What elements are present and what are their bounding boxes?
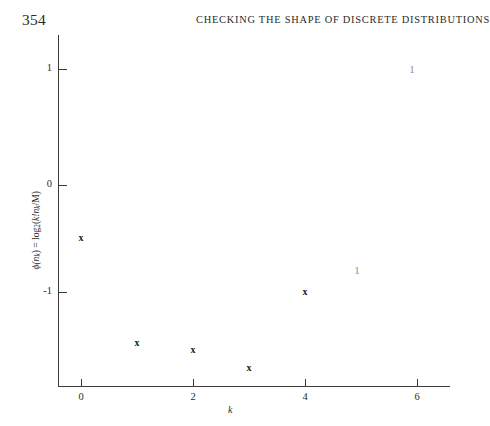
y-axis-label-arg: k!n bbox=[30, 209, 41, 221]
data-point: x bbox=[242, 361, 256, 375]
y-axis-label-arg-sub: k bbox=[34, 205, 42, 208]
x-axis-tick-label: 0 bbox=[69, 391, 93, 402]
x-axis-line bbox=[58, 386, 450, 387]
annotation-label: 1 bbox=[405, 62, 419, 76]
y-axis-tick bbox=[59, 292, 67, 293]
data-point: x bbox=[186, 343, 200, 357]
y-axis-label-phi: ϕ(n bbox=[30, 257, 41, 270]
y-axis-label-log-sub: 2 bbox=[34, 224, 42, 228]
x-axis-tick bbox=[193, 379, 194, 387]
x-axis-tick bbox=[417, 379, 418, 387]
x-axis-tick-label: 4 bbox=[293, 391, 317, 402]
y-axis-tick bbox=[59, 69, 67, 70]
annotation-label: 1 bbox=[350, 263, 364, 277]
x-axis-tick bbox=[81, 379, 82, 387]
y-axis-tick-label: 1 bbox=[26, 62, 52, 73]
data-point: x bbox=[74, 231, 88, 245]
y-axis-label-phi-close: ) = log bbox=[30, 228, 41, 254]
x-axis-tick-label: 2 bbox=[181, 391, 205, 402]
y-axis-label-phi-sub: k bbox=[34, 253, 42, 256]
y-axis-tick bbox=[59, 185, 67, 186]
x-axis-tick-label: 6 bbox=[405, 391, 429, 402]
x-axis-label: k bbox=[228, 404, 232, 415]
y-axis-label-arg-close: /M) bbox=[30, 191, 41, 205]
y-axis-label: ϕ(nk) = log2(k!nk/M) bbox=[30, 165, 43, 295]
y-axis-line bbox=[58, 35, 59, 386]
y-axis-label-arg-open: ( bbox=[30, 221, 41, 224]
data-point: x bbox=[298, 285, 312, 299]
data-point: x bbox=[130, 336, 144, 350]
x-axis-tick bbox=[305, 379, 306, 387]
